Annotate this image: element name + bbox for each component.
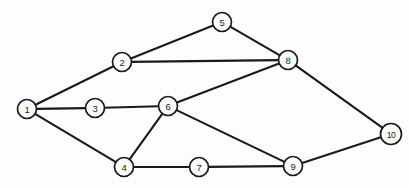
graph-diagram-canvas: 12345678910	[0, 0, 409, 187]
graph-edge-5-8	[230, 26, 281, 55]
graph-node-circle-4[interactable]	[115, 158, 134, 177]
graph-node-4[interactable]: 4	[115, 158, 134, 177]
graph-node-circle-3[interactable]	[86, 99, 105, 118]
graph-edge-1-4	[35, 114, 117, 163]
graph-node-3[interactable]: 3	[86, 99, 105, 118]
graph-edge-2-5	[130, 25, 213, 58]
graph-node-1[interactable]: 1	[18, 100, 37, 119]
graph-edge-4-6	[129, 113, 163, 160]
graph-node-circle-9[interactable]	[284, 157, 303, 176]
graph-node-circle-7[interactable]	[190, 158, 209, 177]
graph-edge-6-9	[176, 110, 285, 162]
node-layer: 12345678910	[18, 13, 402, 177]
graph-edge-1-3	[36, 108, 86, 109]
graph-edge-8-10	[295, 65, 383, 128]
graph-node-circle-10[interactable]	[381, 124, 402, 145]
graph-edge-1-2	[35, 66, 114, 105]
graph-node-8[interactable]: 8	[279, 51, 298, 70]
graph-node-circle-1[interactable]	[18, 100, 37, 119]
graph-node-10[interactable]: 10	[381, 124, 402, 145]
graph-node-circle-2[interactable]	[113, 53, 132, 72]
graph-edge-9-10	[301, 137, 381, 163]
graph-node-7[interactable]: 7	[190, 158, 209, 177]
graph-edge-7-9	[208, 166, 284, 167]
graph-edge-3-6	[104, 106, 159, 108]
graph-node-circle-6[interactable]	[159, 97, 178, 116]
graph-edge-6-8	[176, 63, 279, 103]
graph-node-9[interactable]: 9	[284, 157, 303, 176]
graph-svg: 12345678910	[0, 0, 409, 187]
graph-node-2[interactable]: 2	[113, 53, 132, 72]
graph-node-5[interactable]: 5	[213, 13, 232, 32]
edge-layer	[35, 25, 383, 167]
graph-node-circle-5[interactable]	[213, 13, 232, 32]
graph-node-circle-8[interactable]	[279, 51, 298, 70]
graph-edge-2-8	[131, 60, 279, 62]
graph-node-6[interactable]: 6	[159, 97, 178, 116]
